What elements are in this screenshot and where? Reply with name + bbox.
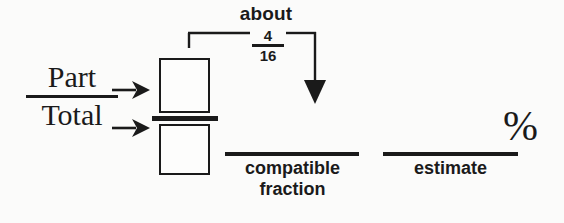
denominator-answer-box[interactable] xyxy=(159,124,210,175)
about-label: about xyxy=(228,3,304,25)
part-total-ratio: Part Total xyxy=(26,62,118,130)
fraction-bar xyxy=(152,116,218,121)
part-label: Part xyxy=(26,62,118,94)
estimate-caption-line1: estimate xyxy=(378,158,523,179)
estimate-blank-line[interactable] xyxy=(383,152,518,156)
compatible-fraction-caption: compatible fraction xyxy=(215,158,370,200)
compatible-fraction-callout: 4 16 xyxy=(252,28,284,63)
arrow-right-numerator-icon xyxy=(112,81,150,99)
arrow-right-denominator-icon xyxy=(112,119,150,137)
callout-denominator: 16 xyxy=(252,48,284,63)
total-label: Total xyxy=(26,100,118,130)
compatible-fraction-blank-line[interactable] xyxy=(225,152,359,156)
compatible-fraction-caption-line2: fraction xyxy=(215,179,370,200)
compatible-fraction-caption-line1: compatible xyxy=(215,158,370,179)
worksheet-diagram: Part Total about xyxy=(0,0,564,223)
callout-numerator: 4 xyxy=(252,28,284,43)
percent-symbol: % xyxy=(503,105,538,147)
estimate-caption: estimate xyxy=(378,158,523,179)
